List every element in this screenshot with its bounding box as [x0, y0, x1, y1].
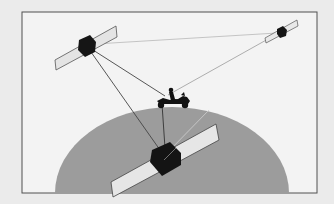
diagram-canvas — [0, 0, 334, 204]
satellite-diagram — [0, 0, 334, 204]
